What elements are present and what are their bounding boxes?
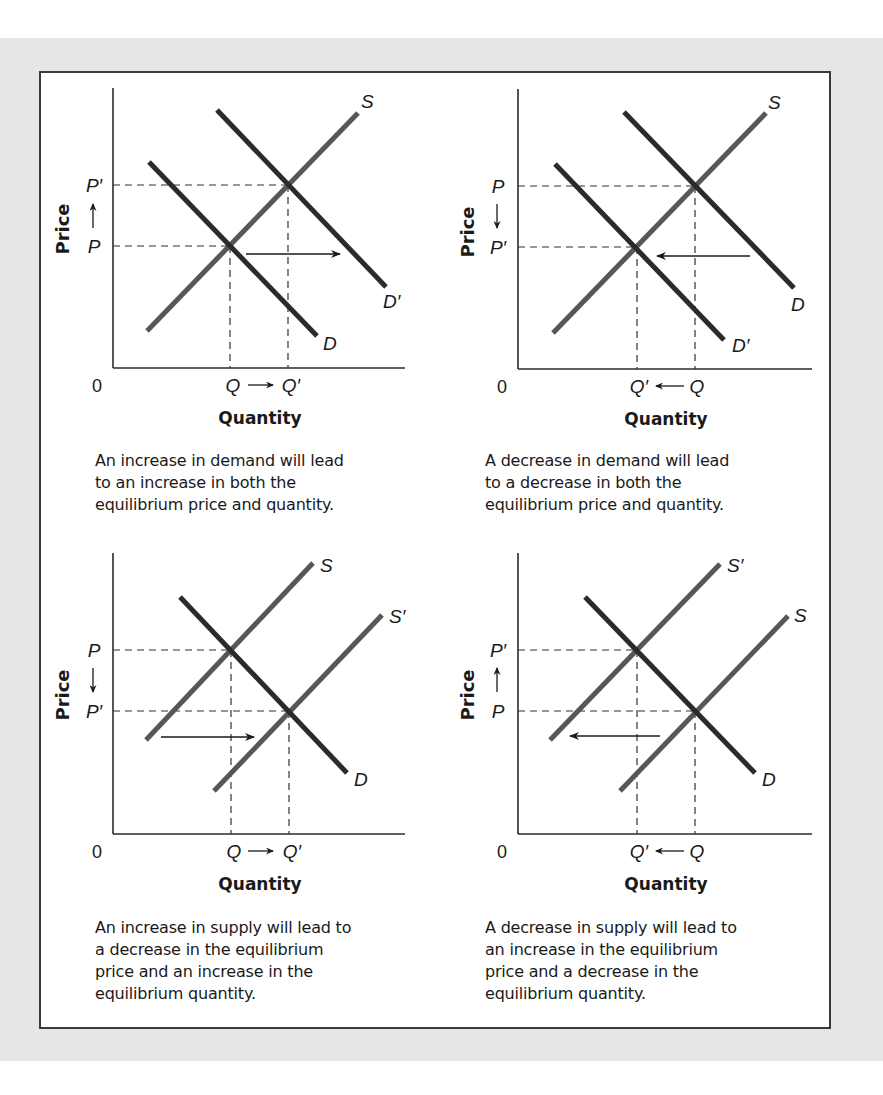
caption-supply-decrease: A decrease in supply will lead to an inc… [485,917,825,1005]
panel-demand-increase: Price P′ P 0 Q Q′ Quantity S D′ D [52,88,405,428]
price-top-label: P [88,640,101,661]
qty-right-label: Q [690,841,705,862]
y-axis-label: Price [457,206,478,257]
caption-line: to an increase in both the [95,472,435,494]
caption-demand-increase: An increase in demand will lead to an in… [95,450,435,516]
supply-label: S [768,92,781,113]
caption-line: to a decrease in both the [485,472,825,494]
origin-label: 0 [497,377,507,397]
supply-shifted-label: S′ [727,555,745,576]
caption-line: equilibrium price and quantity. [95,494,435,516]
demand-shifted-label: D′ [383,291,402,312]
price-bottom-label: P′ [490,237,508,258]
y-axis-label: Price [52,669,73,720]
panel-supply-decrease: Price P′ P 0 Q′ Q Quantity S′ S D [457,553,812,894]
caption-line: A decrease in demand will lead [485,450,825,472]
caption-line: price and a decrease in the [485,961,825,983]
caption-line: a decrease in the equilibrium [95,939,435,961]
supply-shifted-label: S′ [389,606,407,627]
price-top-label: P [492,176,505,197]
caption-line: equilibrium quantity. [95,983,435,1005]
caption-line: An increase in demand will lead [95,450,435,472]
x-axis-label: Quantity [218,408,301,428]
qty-right-label: Q [690,376,705,397]
demand-original-label: D [791,294,805,315]
price-top-label: P′ [86,175,104,196]
y-axis-label: Price [457,669,478,720]
demand-label: D [354,769,368,790]
panel-supply-increase: Price P P′ 0 Q Q′ Quantity S S′ D [52,553,407,894]
qty-right-label: Q′ [283,841,303,862]
origin-label: 0 [92,376,102,396]
caption-line: equilibrium price and quantity. [485,494,825,516]
supply-label: S [361,91,374,112]
origin-label: 0 [92,842,102,862]
qty-left-label: Q′ [630,376,650,397]
demand-curve [180,597,347,773]
x-axis-label: Quantity [624,409,707,429]
price-bottom-label: P′ [86,701,104,722]
origin-label: 0 [497,842,507,862]
demand-label: D [762,769,776,790]
caption-line: an increase in the equilibrium [485,939,825,961]
price-bottom-label: P [492,701,505,722]
panel-demand-decrease: Price P P′ 0 Q′ Q Quantity S D D′ [457,89,812,429]
qty-right-label: Q′ [282,375,302,396]
demand-shifted-label: D′ [732,335,751,356]
x-axis-label: Quantity [218,874,301,894]
caption-line: equilibrium quantity. [485,983,825,1005]
caption-line: A decrease in supply will lead to [485,917,825,939]
y-axis-label: Price [52,203,73,254]
price-bottom-label: P [88,236,101,257]
caption-supply-increase: An increase in supply will lead to a dec… [95,917,435,1005]
caption-demand-decrease: A decrease in demand will lead to a decr… [485,450,825,516]
qty-left-label: Q [226,375,241,396]
qty-left-label: Q′ [630,841,650,862]
demand-original-label: D [323,333,337,354]
demand-curve [585,597,755,773]
qty-left-label: Q [227,841,242,862]
caption-line: An increase in supply will lead to [95,917,435,939]
supply-original-label: S [794,605,807,626]
x-axis-label: Quantity [624,874,707,894]
caption-line: price and an increase in the [95,961,435,983]
supply-original-label: S [320,555,333,576]
price-top-label: P′ [490,640,508,661]
